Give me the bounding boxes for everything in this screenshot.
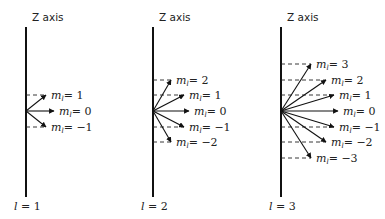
ml-label: ml= −2 — [176, 136, 218, 150]
z-axis-label: Z axis — [287, 11, 319, 23]
ml-label: ml= −1 — [189, 121, 231, 135]
arrow-icon — [281, 95, 334, 111]
ml-label: ml= 0 — [343, 105, 375, 119]
ml-label: ml= 1 — [51, 89, 83, 103]
z-axis-label: Z axis — [159, 11, 191, 23]
arrow-icon — [281, 111, 311, 158]
diagram-l1: Z axisl = 1ml= 1ml= 0ml= −1 — [14, 11, 93, 213]
ml-label: ml= 0 — [59, 105, 91, 119]
diagram-l3: Z axisl = 3ml= 3ml= 2ml= 1ml= 0ml= −1ml=… — [269, 11, 381, 213]
ml-label: ml= 0 — [194, 105, 226, 119]
ml-label: ml= 2 — [176, 74, 208, 88]
arrow-icon — [281, 80, 326, 111]
angular-momentum-quantization-figure: Z axisl = 1ml= 1ml= 0ml= −1Z axisl = 2ml… — [0, 0, 385, 219]
arrow-icon — [281, 111, 334, 127]
arrow-icon — [26, 95, 46, 111]
z-axis-label: Z axis — [32, 11, 64, 23]
ml-vector-0: ml= 0 — [26, 105, 91, 119]
ml-label: ml= 1 — [339, 89, 371, 103]
ml-label: ml= −3 — [316, 152, 358, 166]
l-quantum-number-label: l = 3 — [269, 200, 296, 213]
ml-label: ml= −1 — [339, 121, 381, 135]
ml-label: ml= 1 — [189, 89, 221, 103]
ml-label: ml= 3 — [316, 58, 348, 72]
l-quantum-number-label: l = 1 — [14, 200, 41, 213]
arrow-icon — [281, 111, 326, 142]
ml-label: ml= 2 — [331, 74, 363, 88]
ml-label: ml= −1 — [51, 121, 93, 135]
l-quantum-number-label: l = 2 — [141, 200, 168, 213]
arrow-icon — [281, 64, 311, 111]
diagram-l2: Z axisl = 2ml= 2ml= 1ml= 0ml= −1ml= −2 — [141, 11, 231, 213]
ml-label: ml= −2 — [331, 136, 373, 150]
arrow-icon — [26, 111, 46, 127]
